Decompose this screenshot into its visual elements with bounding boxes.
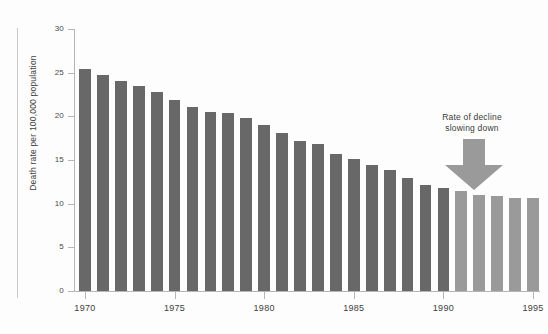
- y-axis-tick-label: 25: [24, 68, 64, 77]
- bar-1989: [420, 185, 432, 291]
- x-axis-tick-label: 1995: [513, 303, 548, 313]
- bar-1984: [330, 154, 342, 291]
- x-axis-tick-label: 1980: [244, 303, 284, 313]
- bar-1974: [151, 92, 163, 291]
- x-axis-tick-label: 1985: [334, 303, 374, 313]
- bar-1988: [402, 178, 414, 291]
- y-axis-tick-label: 10: [24, 199, 64, 208]
- bar-1981: [276, 133, 288, 291]
- y-axis-tick-label: 15: [24, 155, 64, 164]
- bar-chart: Death rate per 100,000 population 051015…: [0, 0, 548, 334]
- y-axis-tick-label: 30: [24, 24, 64, 33]
- bar-1990: [438, 188, 450, 291]
- bar-1978: [222, 113, 234, 291]
- bar-1993: [491, 196, 503, 291]
- bar-1972: [115, 81, 127, 291]
- bar-1980: [258, 125, 270, 291]
- x-axis-tick: [264, 292, 265, 299]
- bar-1970: [79, 69, 91, 291]
- y-axis-tick-label: 5: [24, 242, 64, 251]
- x-axis-tick-label: 1975: [155, 303, 195, 313]
- x-axis-tick: [443, 292, 444, 299]
- y-axis-tick-label: 0: [24, 286, 64, 295]
- bar-1995: [527, 198, 539, 291]
- bar-1986: [366, 165, 378, 291]
- down-arrow-icon: [443, 139, 505, 191]
- annotation-line-1: Rate of decline: [399, 112, 545, 123]
- bar-1982: [294, 141, 306, 291]
- bar-1983: [312, 144, 324, 291]
- bar-1971: [97, 75, 109, 291]
- x-axis-tick-label: 1970: [65, 303, 105, 313]
- x-axis-tick: [85, 292, 86, 299]
- bar-1977: [205, 112, 217, 291]
- bar-1992: [473, 195, 485, 291]
- x-axis-line: [74, 291, 540, 292]
- y-axis-tick-label: 20: [24, 111, 64, 120]
- page-left-rule: [17, 28, 18, 298]
- y-axis-title: Death rate per 100,000 population: [28, 28, 38, 218]
- x-axis-tick: [354, 292, 355, 299]
- bar-1975: [169, 100, 181, 291]
- x-axis-tick: [533, 292, 534, 299]
- bar-1979: [240, 118, 252, 291]
- annotation-line-2: slowing down: [399, 123, 545, 134]
- x-axis-tick: [175, 292, 176, 299]
- y-axis-tick: [68, 291, 75, 292]
- bar-1973: [133, 86, 145, 291]
- annotation-text: Rate of decline slowing down: [399, 112, 545, 134]
- bar-1985: [348, 159, 360, 291]
- bar-1994: [509, 198, 521, 291]
- bar-1987: [384, 170, 396, 291]
- bar-1976: [187, 107, 199, 291]
- x-axis-tick-label: 1990: [423, 303, 463, 313]
- bar-1991: [455, 191, 467, 291]
